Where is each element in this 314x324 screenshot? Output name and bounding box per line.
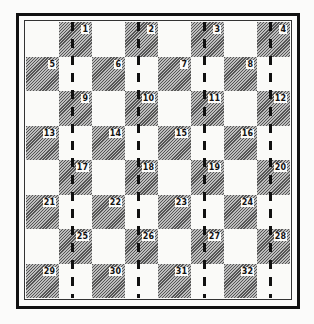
light-square (59, 57, 92, 92)
checkerboard: 1234567891011121314151617181920212223242… (26, 22, 290, 298)
square-number: 16 (241, 129, 254, 138)
dark-square: 20 (257, 160, 290, 195)
light-square (158, 22, 191, 57)
light-square (191, 126, 224, 161)
square-number: 25 (76, 232, 89, 241)
light-square (224, 160, 257, 195)
dark-square: 2 (125, 22, 158, 57)
square-number: 17 (76, 163, 89, 172)
square-number: 26 (142, 232, 155, 241)
square-number: 18 (142, 163, 155, 172)
dark-square: 30 (92, 264, 125, 299)
dashed-divider-line (137, 22, 140, 298)
square-number: 30 (109, 267, 122, 276)
dark-square: 13 (26, 126, 59, 161)
square-number: 31 (175, 267, 188, 276)
light-square (191, 195, 224, 230)
dark-square: 4 (257, 22, 290, 57)
light-square (59, 195, 92, 230)
light-square (59, 264, 92, 299)
square-number: 5 (48, 60, 56, 69)
light-square (224, 91, 257, 126)
dark-square: 28 (257, 229, 290, 264)
dark-square: 27 (191, 229, 224, 264)
light-square (191, 264, 224, 299)
square-number: 12 (274, 94, 287, 103)
light-square (158, 160, 191, 195)
dark-square: 1 (59, 22, 92, 57)
square-number: 24 (241, 198, 254, 207)
light-square (92, 91, 125, 126)
square-number: 32 (241, 267, 254, 276)
light-square (257, 126, 290, 161)
square-number: 1 (81, 25, 89, 34)
dark-square: 7 (158, 57, 191, 92)
square-number: 21 (43, 198, 56, 207)
light-square (125, 195, 158, 230)
dark-square: 18 (125, 160, 158, 195)
light-square (125, 264, 158, 299)
light-square (125, 57, 158, 92)
light-square (26, 160, 59, 195)
dark-square: 32 (224, 264, 257, 299)
square-number: 11 (208, 94, 221, 103)
square-number: 3 (213, 25, 221, 34)
dark-square: 11 (191, 91, 224, 126)
square-number: 27 (208, 232, 221, 241)
square-number: 8 (246, 60, 254, 69)
square-number: 13 (43, 129, 56, 138)
light-square (92, 229, 125, 264)
light-square (191, 57, 224, 92)
dark-square: 8 (224, 57, 257, 92)
light-square (26, 229, 59, 264)
dark-square: 10 (125, 91, 158, 126)
dark-square: 22 (92, 195, 125, 230)
dark-square: 29 (26, 264, 59, 299)
light-square (59, 126, 92, 161)
square-number: 15 (175, 129, 188, 138)
square-number: 7 (180, 60, 188, 69)
square-number: 9 (81, 94, 89, 103)
square-number: 22 (109, 198, 122, 207)
board-inner-frame: 1234567891011121314151617181920212223242… (24, 20, 292, 300)
dark-square: 14 (92, 126, 125, 161)
light-square (257, 57, 290, 92)
light-square (158, 229, 191, 264)
light-square (224, 22, 257, 57)
dark-square: 16 (224, 126, 257, 161)
light-square (26, 22, 59, 57)
dark-square: 9 (59, 91, 92, 126)
light-square (224, 229, 257, 264)
board-outer-frame: 1234567891011121314151617181920212223242… (16, 13, 300, 309)
dark-square: 24 (224, 195, 257, 230)
square-number: 29 (43, 267, 56, 276)
dark-square: 15 (158, 126, 191, 161)
square-number: 28 (274, 232, 287, 241)
dark-square: 6 (92, 57, 125, 92)
light-square (92, 22, 125, 57)
square-number: 6 (114, 60, 122, 69)
square-number: 4 (279, 25, 287, 34)
dark-square: 26 (125, 229, 158, 264)
light-square (26, 91, 59, 126)
light-square (92, 160, 125, 195)
light-square (257, 264, 290, 299)
dark-square: 21 (26, 195, 59, 230)
dark-square: 5 (26, 57, 59, 92)
dark-square: 12 (257, 91, 290, 126)
square-number: 19 (208, 163, 221, 172)
light-square (257, 195, 290, 230)
dashed-divider-line (71, 22, 74, 298)
square-number: 20 (274, 163, 287, 172)
light-square (125, 126, 158, 161)
dashed-divider-line (203, 22, 206, 298)
dark-square: 23 (158, 195, 191, 230)
dark-square: 25 (59, 229, 92, 264)
dark-square: 3 (191, 22, 224, 57)
dark-square: 17 (59, 160, 92, 195)
square-number: 23 (175, 198, 188, 207)
square-number: 2 (147, 25, 155, 34)
light-square (158, 91, 191, 126)
dark-square: 31 (158, 264, 191, 299)
dark-square: 19 (191, 160, 224, 195)
